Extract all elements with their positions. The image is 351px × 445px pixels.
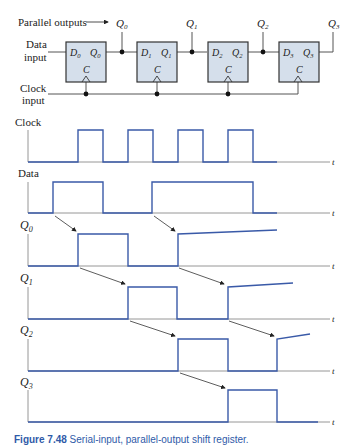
q0-output-label: Q0 [116, 17, 128, 31]
q3-signal-label: Q3 [20, 375, 33, 391]
data-waveform [28, 182, 277, 213]
clock-signal-label: Clock [15, 116, 42, 128]
svg-text:C: C [154, 64, 161, 75]
svg-text:C: C [225, 64, 232, 75]
clock-input-label-line2: input [22, 94, 45, 106]
data-signal-label: Data [18, 167, 39, 179]
parallel-outputs-label: Parallel outputs [18, 16, 87, 28]
shift-arrows [55, 216, 274, 388]
q3-waveform [28, 390, 318, 422]
svg-text:C: C [296, 64, 303, 75]
flipflop-3: D3 Q3 C [279, 42, 319, 82]
q2-waveform [28, 334, 310, 371]
data-input-label-line1: Data [26, 38, 47, 50]
time-axes [28, 130, 330, 422]
q3-output-label: Q3 [328, 17, 340, 31]
figure-caption: Figure 7.48 Serial-input, parallel-outpu… [14, 434, 249, 445]
flipflop-1: D1 Q1 C [137, 42, 177, 82]
svg-text:C: C [83, 64, 90, 75]
q0-waveform [28, 230, 277, 266]
time-axis-labels: t t t t t t [332, 157, 335, 427]
figure-number: Figure 7.48 [14, 434, 67, 445]
q1-signal-label: Q1 [20, 271, 33, 287]
svg-text:t: t [332, 157, 335, 167]
svg-text:t: t [332, 261, 335, 271]
q0-signal-label: Q0 [20, 218, 33, 234]
data-input-label-line2: input [24, 51, 47, 63]
q1-output-label: Q1 [186, 17, 197, 31]
clock-waveform [28, 130, 277, 162]
flipflop-0: D0 Q0 C [66, 42, 106, 82]
svg-text:t: t [332, 417, 335, 427]
svg-text:t: t [332, 366, 335, 376]
figure-caption-text: Serial-input, parallel-output shift regi… [70, 434, 249, 445]
timing-diagram: Clock Data Q0 Q1 Q2 Q3 t t t t t t [15, 116, 335, 427]
svg-text:t: t [332, 208, 335, 218]
q2-signal-label: Q2 [20, 323, 33, 339]
q2-output-label: Q2 [257, 17, 269, 31]
clock-input-label-line1: Clock [20, 82, 47, 94]
circuit-diagram: Parallel outputs Data input Clock input [18, 16, 340, 106]
svg-text:t: t [332, 314, 335, 324]
q1-waveform [28, 283, 293, 319]
flipflop-2: D2 Q2 C [208, 42, 248, 82]
